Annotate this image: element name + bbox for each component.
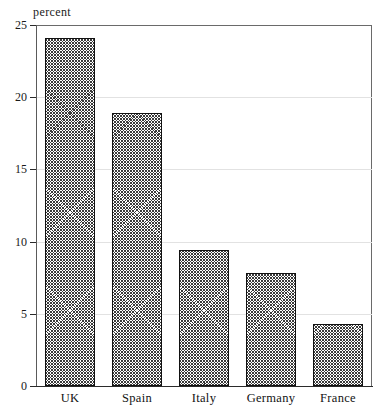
bars-group xyxy=(0,0,388,418)
x-axis-category-label: Germany xyxy=(247,391,296,406)
x-axis-category-label: Italy xyxy=(192,391,216,406)
bar xyxy=(179,250,229,386)
x-axis-tick xyxy=(137,382,138,387)
x-axis-tick xyxy=(271,382,272,387)
bar xyxy=(112,113,162,386)
x-axis-category-label: Spain xyxy=(122,391,152,406)
x-axis-tick xyxy=(70,382,71,387)
x-axis-tick xyxy=(204,382,205,387)
x-axis-category-label: France xyxy=(320,391,356,406)
x-axis-category-label: UK xyxy=(61,391,80,406)
bar xyxy=(45,38,95,386)
x-axis-tick xyxy=(338,382,339,387)
bar xyxy=(246,273,296,386)
bar xyxy=(313,324,363,386)
bar-chart: percent 0510152025 UKSpainItalyGermanyFr… xyxy=(0,0,388,418)
